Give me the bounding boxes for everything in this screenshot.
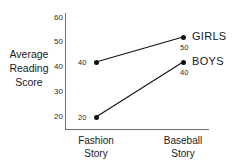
x-axis-category-baseball-line-1: Baseball <box>146 134 220 147</box>
girls-point-fashion-story[interactable] <box>94 60 99 65</box>
x-axis-category-baseball-story: Baseball Story <box>146 134 220 160</box>
boys-point-baseball-story[interactable] <box>181 60 186 65</box>
reading-score-line-chart: 60 50 40 30 20 Average Reading Score 40 … <box>0 0 240 165</box>
boys-point-fashion-story[interactable] <box>94 115 99 120</box>
boys-value-label-left: 20 <box>78 114 86 122</box>
x-axis-category-baseball-line-2: Story <box>146 147 220 160</box>
x-axis-category-fashion-story: Fashion Story <box>59 134 133 160</box>
x-axis-category-fashion-line-2: Story <box>59 147 133 160</box>
girls-line-segment <box>96 37 183 62</box>
girls-point-baseball-story[interactable] <box>181 35 186 40</box>
series-label-girls: GIRLS <box>192 31 227 42</box>
girls-value-label-left: 40 <box>78 59 86 67</box>
boys-line-segment <box>96 62 183 117</box>
boys-value-label-right: 40 <box>180 69 188 77</box>
series-label-boys: BOYS <box>192 56 224 67</box>
girls-value-label-right: 50 <box>180 44 188 52</box>
x-axis-category-fashion-line-1: Fashion <box>59 134 133 147</box>
